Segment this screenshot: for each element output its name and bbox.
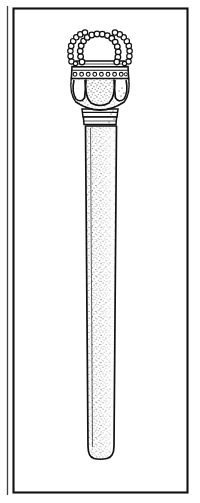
lobe-left	[73, 80, 85, 101]
illustration-plate	[0, 0, 200, 503]
ring-collar-group	[82, 109, 118, 125]
scepter-illustration	[0, 0, 200, 503]
jewel-band-stones	[73, 72, 127, 76]
shaft-stipple	[84, 124, 118, 460]
lobe-right	[115, 80, 127, 101]
jewel-band-group	[71, 67, 128, 79]
shaft-group	[84, 124, 118, 460]
